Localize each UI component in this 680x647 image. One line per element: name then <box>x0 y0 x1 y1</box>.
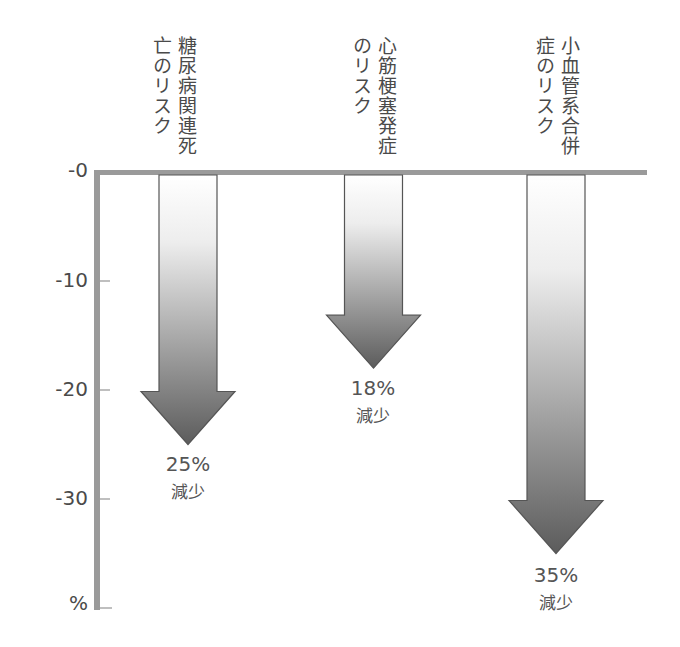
y-tick-label: -10 <box>28 268 88 292</box>
category-label-line: のリスク <box>350 36 372 116</box>
y-unit-label: % <box>28 591 88 615</box>
category-label-line: 症のリスク <box>533 36 555 136</box>
down-arrow-bar-2 <box>327 175 421 368</box>
category-label-2: 心筋梗塞発症 <box>375 36 397 156</box>
category-label-1: 糖尿病関連死 <box>175 36 197 156</box>
category-label-line: 糖尿病関連死 <box>175 36 197 156</box>
y-tick-label: -0 <box>28 158 88 182</box>
value-label-pct-1: 25% <box>143 452 233 476</box>
value-label-pct-2: 18% <box>328 376 418 400</box>
x-axis-baseline <box>94 170 647 175</box>
down-arrow-bar-1 <box>141 175 235 445</box>
value-label-text-3: 減少 <box>511 589 601 614</box>
category-label-line: 小血管系合併 <box>558 36 580 156</box>
category-label-2: のリスク <box>350 36 372 116</box>
category-label-line: 心筋梗塞発症 <box>375 36 397 156</box>
down-arrow-bar-3 <box>509 175 603 554</box>
category-label-1: 亡のリスク <box>150 36 172 136</box>
category-label-3: 小血管系合併 <box>558 36 580 156</box>
y-axis-line <box>94 170 100 610</box>
y-tick-label: -20 <box>28 377 88 401</box>
category-label-3: 症のリスク <box>533 36 555 136</box>
value-label-text-2: 減少 <box>328 402 418 427</box>
category-label-line: 亡のリスク <box>150 36 172 136</box>
value-label-text-1: 減少 <box>143 478 233 503</box>
value-label-pct-3: 35% <box>511 563 601 587</box>
y-tick-label: -30 <box>28 486 88 510</box>
